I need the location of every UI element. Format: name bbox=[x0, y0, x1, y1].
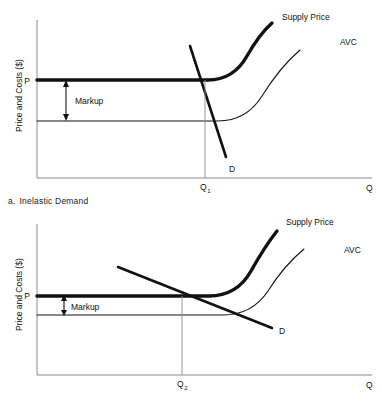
economics-figure: Price and Costs ($) P Markup Supply Pric… bbox=[0, 0, 382, 418]
supply-price-label: Supply Price bbox=[282, 12, 330, 22]
caption-letter-a: a. bbox=[8, 196, 16, 206]
x-axis-label: Q bbox=[366, 183, 373, 193]
avc-curve bbox=[37, 50, 300, 121]
q2-subscript: 2 bbox=[184, 385, 188, 391]
avc-label: AVC bbox=[340, 37, 357, 47]
q1-axis-label: Q1 bbox=[200, 182, 211, 194]
supply-price-label: Supply Price bbox=[286, 217, 334, 227]
price-label-p: P bbox=[24, 291, 30, 301]
markup-label: Markup bbox=[75, 96, 104, 106]
inelastic-demand-plot: Price and Costs ($) P Markup Supply Pric… bbox=[0, 0, 382, 209]
markup-arrow-head-down bbox=[63, 114, 69, 121]
elastic-demand-plot: Price and Costs ($) P Markup Supply Pric… bbox=[0, 209, 382, 418]
chart-panel-inelastic: Price and Costs ($) P Markup Supply Pric… bbox=[0, 0, 382, 209]
demand-label: D bbox=[279, 326, 285, 336]
y-axis-label: Price and Costs ($) bbox=[14, 258, 24, 331]
supply-price-curve bbox=[37, 231, 277, 296]
supply-price-curve bbox=[37, 23, 272, 80]
markup-label: Markup bbox=[71, 302, 100, 312]
caption-text-a: Inelastic Demand bbox=[20, 196, 89, 206]
caption-inelastic: a.Inelastic Demand bbox=[8, 196, 88, 206]
price-label-p: P bbox=[24, 76, 30, 86]
q2-axis-label: Q2 bbox=[177, 379, 188, 391]
q1-subscript: 1 bbox=[207, 188, 211, 194]
demand-curve bbox=[190, 46, 226, 157]
demand-label: D bbox=[229, 164, 235, 174]
x-axis-label: Q bbox=[366, 380, 373, 390]
chart-panel-elastic: Price and Costs ($) P Markup Supply Pric… bbox=[0, 209, 382, 418]
y-axis-label: Price and Costs ($) bbox=[14, 59, 24, 132]
avc-label: AVC bbox=[344, 245, 361, 255]
q1-letter: Q bbox=[200, 182, 207, 192]
q2-letter: Q bbox=[177, 379, 184, 389]
